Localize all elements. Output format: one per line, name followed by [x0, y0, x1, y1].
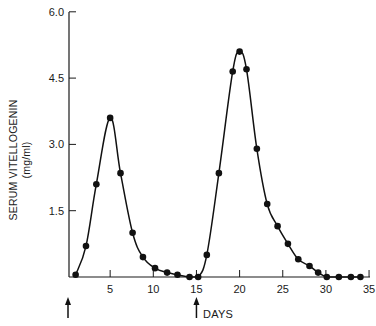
data-point	[274, 223, 281, 230]
x-tick-label: 5	[107, 283, 113, 295]
data-point	[323, 274, 330, 281]
data-point	[174, 271, 181, 278]
vitellogenin-chart: 1.53.04.56.0 5101520253035 SERUM VITELLO…	[0, 0, 376, 326]
data-point	[93, 181, 100, 188]
data-point	[72, 271, 79, 278]
data-point	[357, 274, 364, 281]
data-point	[83, 243, 90, 250]
data-point	[195, 274, 202, 281]
data-point	[306, 263, 313, 270]
x-tick-label: 25	[277, 283, 289, 295]
data-point	[186, 274, 193, 281]
data-point	[285, 241, 292, 248]
up-arrow-icon	[193, 297, 199, 318]
x-tick-label: 35	[363, 283, 375, 295]
y-tick-label: 6.0	[49, 6, 64, 18]
y-axis-label: SERUM VITELLOGENIN	[7, 100, 19, 221]
data-point	[254, 146, 261, 153]
y-ticks: 1.53.04.56.0	[49, 6, 76, 217]
y-axis-title: SERUM VITELLOGENIN (mg/ml)	[7, 100, 32, 221]
data-point	[315, 269, 322, 276]
data-point	[348, 274, 355, 281]
x-tick-label: 20	[233, 283, 245, 295]
data-point	[152, 265, 159, 272]
y-tick-label: 4.5	[49, 72, 64, 84]
data-point	[140, 254, 147, 261]
data-point	[117, 170, 124, 177]
data-point	[216, 170, 223, 177]
up-arrow-icon	[65, 297, 71, 318]
x-tick-label: 15	[190, 283, 202, 295]
axes	[69, 12, 370, 277]
x-ticks: 5101520253035	[107, 270, 375, 295]
arrows	[65, 297, 199, 318]
data-curve	[76, 52, 361, 277]
data-point	[336, 274, 343, 281]
data-point	[164, 269, 171, 276]
y-axis-unit: (mg/ml)	[20, 142, 32, 179]
data-point	[243, 66, 250, 73]
data-point	[236, 48, 243, 55]
data-point	[295, 256, 302, 263]
x-tick-label: 30	[320, 283, 332, 295]
y-tick-label: 1.5	[49, 205, 64, 217]
y-tick-label: 3.0	[49, 138, 64, 150]
data-point	[204, 252, 211, 259]
data-point	[229, 68, 236, 75]
x-tick-label: 10	[147, 283, 159, 295]
x-axis-label: DAYS	[203, 308, 233, 320]
data-point	[107, 115, 114, 122]
data-markers	[72, 48, 363, 280]
data-point	[129, 230, 136, 237]
data-point	[264, 201, 271, 208]
